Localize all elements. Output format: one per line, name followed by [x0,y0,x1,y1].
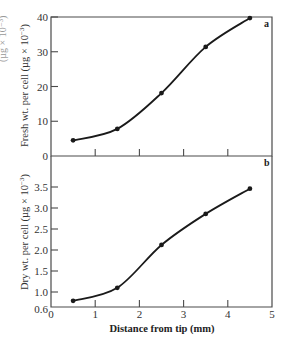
x-tick-label: 2 [137,308,143,320]
x-tick-label: 4 [225,308,231,320]
y-tick-label: 2.0 [34,244,48,256]
panel-a-markers [71,16,253,143]
x-tick-label: 1 [92,308,98,320]
panel-a-label: a [264,18,269,29]
data-point [71,298,76,303]
svg-text:Dry wt. per cell (µg × 10−3): Dry wt. per cell (µg × 10−3) [18,174,31,290]
panel-a: 010203040 a Fresh wt. per cell (µg × 10−… [18,11,272,162]
data-point [115,126,120,131]
x-tick-label: 0 [48,308,54,320]
y-tick-label: 10 [37,115,49,127]
panel-a-curve [73,18,250,140]
x-tick-label: 5 [269,308,275,320]
x-axis-label: Distance from tip (mm) [109,323,215,335]
panel-b-label: b [264,157,270,168]
y-tick-label: 3.0 [34,202,48,214]
panel-b-x-ticks: 012345 [48,300,275,320]
data-point [203,44,208,49]
panel-b-markers [71,186,253,303]
y-tick-label: 0 [43,150,49,162]
data-point [248,186,253,191]
panel-b-y-ticks: 0.61.01.52.02.53.03.5 [34,181,58,315]
panel-a-y-ticks: 010203040 [37,11,58,162]
y-tick-label: 1.0 [34,286,48,298]
panel-b-frame [51,156,272,307]
data-point [159,243,164,248]
data-point [203,211,208,216]
y-tick-label: 1.5 [34,265,48,277]
data-point [115,285,120,290]
panel-a-y-axis-label: Fresh wt. per cell (µg × 10−3) [18,24,31,147]
y-tick-label: 0.6 [34,303,48,315]
y-tick-label: 2.5 [34,223,48,235]
figure: (µg × 10⁻³) 010203040 a Fresh wt. per ce… [0,0,286,343]
y-tick-label: 20 [37,81,49,93]
data-point [159,91,164,96]
y-tick-label: 40 [37,11,49,23]
panel-a-frame [51,17,272,156]
y-tick-label: 30 [37,46,49,58]
data-point [248,16,253,21]
panel-b-y-axis-label: Dry wt. per cell (µg × 10−3) [18,174,31,290]
x-tick-label: 3 [181,308,187,320]
cut-off-axis-label: (µg × 10⁻³) [0,16,9,62]
panel-a-x-ticks [95,149,228,156]
svg-text:(µg × 10⁻³): (µg × 10⁻³) [0,16,9,62]
panel-b: 0.61.01.52.02.53.03.5 012345 b Dry wt. p… [18,156,275,335]
y-tick-label: 3.5 [34,181,48,193]
svg-text:Fresh wt. per cell (µg × 10−3): Fresh wt. per cell (µg × 10−3) [18,24,31,147]
data-point [71,138,76,143]
